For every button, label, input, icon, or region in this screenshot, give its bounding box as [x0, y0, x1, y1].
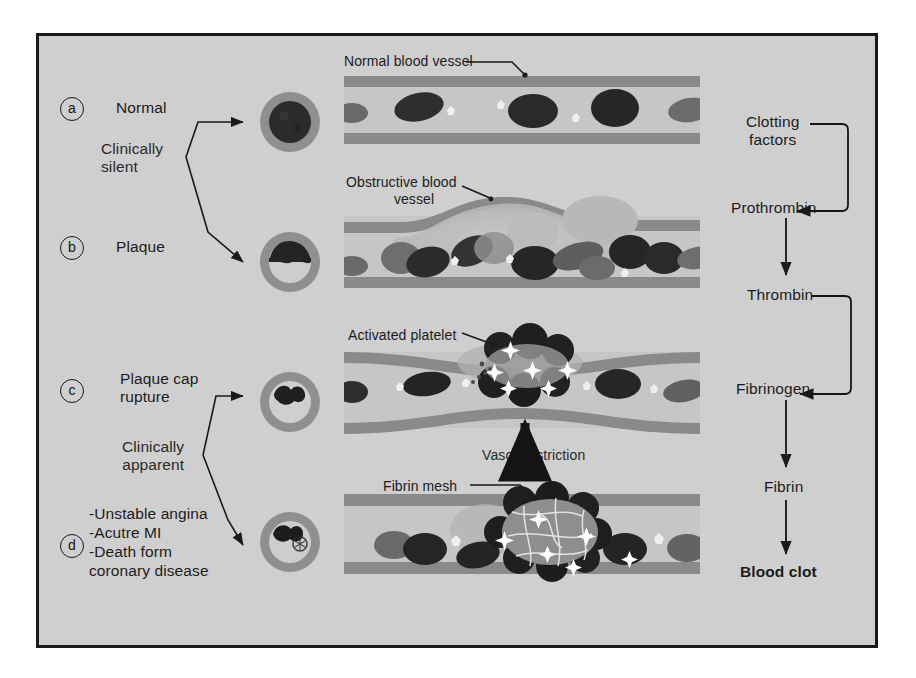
figure-canvas: a Normal Clinically silent b Plaque c Pl…: [0, 0, 916, 678]
stage-label-b: Plaque: [116, 238, 165, 256]
bracket-clinically-apparent: Clinically apparent: [122, 438, 184, 474]
outcome-item-2: -Acutre MI: [89, 524, 161, 542]
cascade-node-fibrin: Fibrin: [764, 478, 803, 496]
cascade-node-thrombin: Thrombin: [747, 286, 813, 304]
stage-label-c: Plaque cap rupture: [120, 370, 199, 406]
cascade-node-clotting-factors: Clotting factors: [746, 113, 799, 149]
stage-marker-b: b: [60, 236, 84, 260]
outcome-item-3: -Death form: [89, 543, 172, 561]
outcome-item-4: coronary disease: [89, 562, 209, 580]
callout-activated-platelet: Activated platelet: [348, 327, 456, 344]
callout-normal-blood-vessel: Normal blood vessel: [344, 53, 473, 70]
callout-vasoconstriction: Vasoconstriction: [482, 447, 585, 464]
cascade-node-blood-clot: Blood clot: [740, 563, 817, 581]
stage-marker-d: d: [60, 534, 84, 558]
stage-label-a: Normal: [116, 99, 167, 117]
stage-marker-a: a: [60, 97, 84, 121]
outcome-item-1: -Unstable angina: [89, 505, 208, 523]
callout-obstructive-blood-vessel: Obstructive blood vessel: [346, 174, 457, 208]
callout-fibrin-mesh: Fibrin mesh: [383, 478, 457, 495]
stage-marker-c: c: [60, 379, 84, 403]
bracket-clinically-silent: Clinically silent: [101, 140, 163, 176]
cascade-node-fibrinogen: Fibrinogen: [736, 380, 810, 398]
cascade-node-prothrombin: Prothrombin: [731, 199, 817, 217]
